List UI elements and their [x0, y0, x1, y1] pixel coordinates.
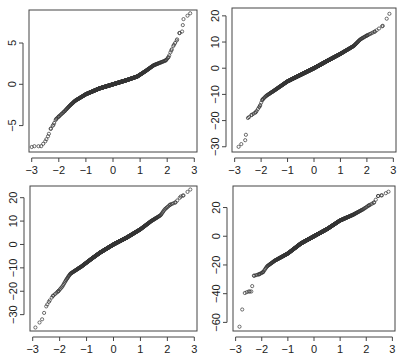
qq-points [237, 12, 391, 148]
y-tick-label: −20 [210, 256, 222, 275]
y-tick-label: −40 [210, 284, 222, 303]
y-axis: −30−20−1001020 [209, 10, 226, 156]
x-axis: −3−2−10123 [26, 337, 197, 355]
x-tick-label: −2 [53, 164, 66, 176]
qq-plot-figure: −3−2−10123−505 −3−2−10123−30−20−1001020 … [0, 0, 406, 360]
x-tick-label: −3 [26, 343, 39, 355]
y-tick-label: −10 [7, 259, 19, 278]
plot-frame [30, 186, 197, 331]
x-tick-label: 2 [364, 164, 370, 176]
y-tick-label: 20 [210, 201, 222, 213]
y-axis: −505 [6, 40, 23, 132]
y-tick-label: 0 [209, 65, 221, 71]
qq-points [30, 12, 192, 149]
panel-top-right: −3−2−10123−30−20−1001020 [209, 8, 396, 176]
qq-points [238, 190, 390, 328]
x-tick-label: 3 [390, 164, 396, 176]
x-axis: −3−2−10123 [229, 337, 395, 355]
y-tick-label: −20 [7, 282, 19, 301]
qq-points [34, 188, 192, 329]
x-tick-label: 3 [389, 343, 395, 355]
x-axis: −3−2−10123 [25, 158, 197, 176]
x-tick-label: −1 [281, 164, 294, 176]
x-tick-label: −3 [229, 343, 242, 355]
y-tick-label: −20 [209, 111, 221, 130]
plot-frame [29, 10, 197, 152]
x-tick-label: 3 [191, 343, 197, 355]
panel-bottom-right: −3−2−10123−60−40−20020 [210, 186, 395, 355]
x-tick-label: 1 [337, 343, 343, 355]
y-tick-label: 0 [6, 81, 18, 87]
plot-frame [232, 8, 396, 152]
x-tick-label: −3 [25, 164, 38, 176]
x-tick-label: 2 [363, 343, 369, 355]
x-tick-label: −1 [80, 343, 93, 355]
panel-bottom-left: −3−2−10123−30−20−1001020 [7, 186, 197, 355]
panel-top-left: −3−2−10123−505 [6, 10, 197, 176]
x-tick-label: 3 [191, 164, 197, 176]
y-tick-label: 10 [209, 36, 221, 48]
x-tick-label: −1 [80, 164, 93, 176]
y-axis: −30−20−1001020 [7, 192, 24, 324]
x-tick-label: 0 [110, 164, 116, 176]
y-axis: −60−40−20020 [210, 201, 227, 331]
y-tick-label: −5 [6, 119, 18, 132]
x-tick-label: −3 [228, 164, 241, 176]
y-tick-label: 5 [6, 40, 18, 46]
x-tick-label: 2 [164, 343, 170, 355]
y-tick-label: 20 [7, 192, 19, 204]
y-tick-label: 0 [7, 241, 19, 247]
y-tick-label: 20 [209, 10, 221, 22]
y-tick-label: 10 [7, 215, 19, 227]
x-tick-label: −2 [53, 343, 66, 355]
x-tick-label: −2 [255, 343, 268, 355]
x-tick-label: 0 [110, 343, 116, 355]
y-tick-label: −30 [7, 305, 19, 324]
y-tick-label: −10 [209, 85, 221, 104]
y-tick-label: −60 [210, 313, 222, 332]
x-tick-label: 0 [311, 164, 317, 176]
y-tick-label: −30 [209, 137, 221, 156]
x-tick-label: −2 [255, 164, 268, 176]
x-tick-label: 1 [137, 343, 143, 355]
x-tick-label: 1 [337, 164, 343, 176]
x-tick-label: −1 [282, 343, 295, 355]
x-tick-label: 0 [311, 343, 317, 355]
x-tick-label: 2 [164, 164, 170, 176]
y-tick-label: 0 [210, 233, 222, 239]
x-tick-label: 1 [137, 164, 143, 176]
x-axis: −3−2−10123 [228, 158, 396, 176]
plot-frame [233, 186, 395, 331]
